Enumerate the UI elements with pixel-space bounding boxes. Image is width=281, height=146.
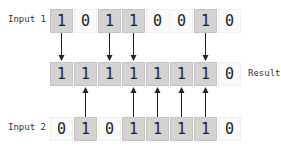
- down-arrow-icon: [131, 33, 137, 61]
- up-arrow-icon: [203, 87, 209, 117]
- up-arrow-icon: [179, 87, 185, 117]
- up-arrow-icon: [131, 87, 137, 117]
- down-arrow-icon: [59, 33, 65, 61]
- arrows-layer: [0, 0, 281, 146]
- up-arrow-icon: [155, 87, 161, 117]
- up-arrow-icon: [83, 87, 89, 117]
- down-arrow-icon: [203, 33, 209, 61]
- down-arrow-icon: [107, 33, 113, 61]
